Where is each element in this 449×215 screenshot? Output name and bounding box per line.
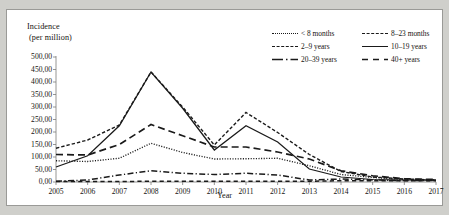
y-axis-tick-label: 0,00 (10, 177, 52, 186)
y-axis-tick-label: 100,00 (10, 152, 52, 161)
line-chart-svg (7, 10, 444, 207)
y-axis-tick-label: 450,00 (10, 65, 52, 74)
y-axis-tick-label: 350,00 (10, 90, 52, 99)
chart-card: Incidence (per million) < 8 months 8–23 … (6, 9, 443, 206)
series-line (56, 143, 436, 180)
series-line (56, 181, 436, 182)
x-axis-title: Year (7, 191, 442, 200)
plot-area: 0,0050,00100,00150,00200,00250,00300,003… (7, 10, 444, 207)
series-line (56, 125, 436, 180)
y-axis-tick-label: 500,00 (10, 52, 52, 61)
y-axis-tick-label: 300,00 (10, 102, 52, 111)
y-axis-tick-label: 50,00 (10, 165, 52, 174)
y-axis-tick-label: 250,00 (10, 115, 52, 124)
screenshot-root: Incidence (per million) < 8 months 8–23 … (0, 0, 449, 215)
series-line (56, 171, 436, 182)
y-axis-tick-label: 150,00 (10, 140, 52, 149)
series-line (56, 72, 436, 180)
y-axis-tick-label: 200,00 (10, 127, 52, 136)
y-axis-tick-label: 400,00 (10, 77, 52, 86)
